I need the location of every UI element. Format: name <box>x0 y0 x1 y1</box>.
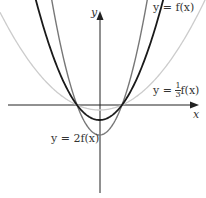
label-f: y = f(x) <box>153 1 194 14</box>
diagram: y x y = f(x) y = 2f(x) y = 13f(x) <box>0 0 206 198</box>
x-axis-label: x <box>193 108 199 121</box>
y-axis-label: y <box>91 6 97 19</box>
y-axis-arrow-icon <box>97 11 104 20</box>
label-two-f: y = 2f(x) <box>51 132 99 145</box>
plot-canvas <box>0 0 206 198</box>
label-third-f: y = 13f(x) <box>153 82 199 99</box>
